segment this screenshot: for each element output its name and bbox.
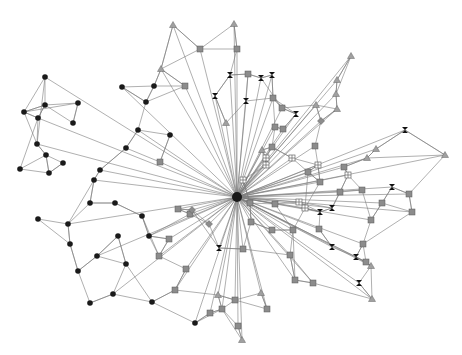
circle-node	[192, 320, 198, 326]
circle-node	[60, 160, 66, 166]
circle-node	[123, 261, 129, 267]
circle-node	[97, 167, 103, 173]
triangle-node	[158, 66, 165, 72]
circle-node	[151, 83, 157, 89]
square-node	[183, 266, 189, 272]
square-node	[272, 124, 278, 130]
square-node	[317, 179, 323, 185]
square-node	[232, 297, 238, 303]
grid-node	[315, 162, 321, 168]
square-node	[379, 200, 385, 206]
circle-node	[94, 253, 100, 259]
square-node	[280, 126, 286, 132]
square-node	[157, 159, 163, 165]
grid-node	[289, 155, 295, 161]
square-node	[207, 310, 213, 316]
grid-node	[263, 162, 269, 168]
square-node	[156, 253, 162, 259]
square-node	[316, 226, 322, 232]
circle-node	[119, 84, 125, 90]
square-node	[264, 306, 270, 312]
triangle-node	[442, 152, 449, 158]
circle-node	[21, 109, 27, 115]
square-node	[234, 46, 240, 52]
network-diagram	[0, 0, 462, 355]
square-node	[269, 227, 275, 233]
circle-node	[123, 145, 129, 151]
hub-node	[232, 192, 242, 202]
square-node	[270, 95, 276, 101]
circle-node	[75, 268, 81, 274]
circle-node	[91, 177, 97, 183]
square-node	[272, 201, 278, 207]
circle-node	[110, 291, 116, 297]
square-node	[360, 241, 366, 247]
circle-node	[115, 233, 121, 239]
square-node	[175, 206, 181, 212]
square-node	[363, 259, 369, 265]
triangle-node	[258, 290, 265, 296]
square-node	[269, 144, 275, 150]
circle-node	[87, 300, 93, 306]
grid-node	[345, 172, 351, 178]
triangle-node	[239, 337, 246, 343]
circle-node	[65, 221, 71, 227]
square-node	[359, 187, 365, 193]
grid-node	[302, 205, 308, 211]
square-node	[312, 143, 318, 149]
circle-node	[42, 102, 48, 108]
square-node	[248, 219, 254, 225]
triangle-node	[348, 53, 355, 59]
square-node	[182, 83, 188, 89]
square-node	[368, 217, 374, 223]
grid-node	[263, 155, 269, 161]
square-node	[240, 246, 246, 252]
square-node	[197, 46, 203, 52]
circle-node	[167, 132, 173, 138]
square-node	[172, 287, 178, 293]
circle-node	[149, 299, 155, 305]
edges	[20, 24, 445, 340]
circle-node	[146, 233, 152, 239]
square-node	[305, 169, 311, 175]
square-node	[287, 252, 293, 258]
circle-node	[67, 241, 73, 247]
square-node	[337, 189, 343, 195]
grid-node	[296, 199, 302, 205]
circle-node	[42, 74, 48, 80]
square-node	[310, 280, 316, 286]
square-node	[409, 209, 415, 215]
triangle-node	[170, 22, 177, 28]
circle-node	[35, 216, 41, 222]
square-node	[406, 191, 412, 197]
square-node	[290, 227, 296, 233]
grid-node	[240, 177, 246, 183]
square-node	[235, 323, 241, 329]
square-node	[247, 200, 253, 206]
triangle-node	[231, 21, 238, 27]
square-node	[279, 105, 285, 111]
circle-node	[34, 141, 40, 147]
circle-node	[35, 115, 41, 121]
square-node	[245, 71, 251, 77]
circle-node	[87, 200, 93, 206]
square-node	[166, 236, 172, 242]
triangle-node	[334, 77, 341, 83]
circle-node	[139, 213, 145, 219]
square-node	[292, 277, 298, 283]
circle-node	[70, 120, 76, 126]
triangle-node	[373, 146, 380, 152]
circle-node	[46, 170, 52, 176]
square-node	[341, 164, 347, 170]
triangle-node	[333, 91, 340, 97]
square-node	[219, 306, 225, 312]
circle-node	[112, 200, 118, 206]
circle-node	[17, 166, 23, 172]
circle-node	[143, 99, 149, 105]
network-graph-svg	[0, 0, 462, 355]
circle-node	[135, 127, 141, 133]
circle-node	[43, 152, 49, 158]
circle-node	[75, 100, 81, 106]
